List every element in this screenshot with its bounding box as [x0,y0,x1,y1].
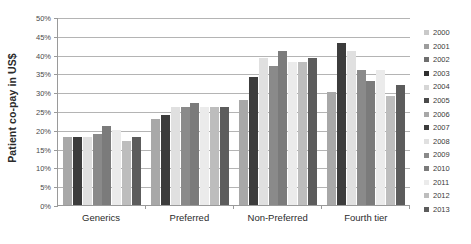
y-axis-tick-label: 10% [36,164,51,173]
y-axis-tick-label: 15% [36,145,51,154]
bar[interactable] [357,70,366,205]
bar-groups [58,18,410,205]
legend-item-label: 2003 [433,70,450,78]
legend-item[interactable]: 2005 [424,94,470,108]
y-axis-tick-label: 40% [36,51,51,60]
bar[interactable] [366,81,375,205]
legend-item-label: 2013 [433,206,450,214]
bar[interactable] [278,51,287,205]
legend-swatch-icon [424,30,429,35]
legend-item-label: 2007 [433,124,450,132]
legend-item[interactable]: 2008 [424,135,470,149]
chart-legend: 2000200120022003200420052006200720082009… [424,26,470,216]
legend-swatch-icon [424,180,429,185]
legend-item-label: 2006 [433,111,450,119]
bar[interactable] [190,103,199,205]
legend-item[interactable]: 2003 [424,67,470,81]
legend-item[interactable]: 2002 [424,53,470,67]
legend-swatch-icon [424,153,429,158]
plot-area [57,18,410,206]
bar[interactable] [132,137,141,205]
bar[interactable] [73,137,82,205]
bar-group [58,18,146,205]
y-axis-tick-label: 0% [40,202,51,211]
legend-item-label: 2000 [433,29,450,37]
legend-swatch-icon [424,207,429,212]
legend-swatch-icon [424,193,429,198]
legend-item[interactable]: 2009 [424,148,470,162]
bar-group [146,18,234,205]
bar[interactable] [161,115,170,205]
bar[interactable] [327,92,336,205]
y-axis-tick-label: 5% [40,183,51,192]
legend-swatch-icon [424,166,429,171]
y-axis-tick-label: 20% [36,126,51,135]
legend-swatch-icon [424,112,429,117]
x-axis-tickmark [409,205,410,209]
bar[interactable] [337,43,346,205]
legend-item[interactable]: 2013 [424,203,470,217]
legend-item-label: 2004 [433,83,450,91]
y-axis-title-text: Patient co-pay in US$ [6,53,18,162]
legend-swatch-icon [424,44,429,49]
legend-item[interactable]: 2006 [424,108,470,122]
x-axis-category-label: Non-Preferred [234,212,322,228]
bar-group [322,18,410,205]
x-axis-category-label: Fourth tier [322,212,410,228]
legend-swatch-icon [424,71,429,76]
bar[interactable] [171,107,180,205]
legend-swatch-icon [424,98,429,103]
legend-item-label: 2008 [433,138,450,146]
y-axis-title: Patient co-pay in US$ [0,0,24,215]
y-axis-tickmark [54,206,58,207]
legend-swatch-icon [424,125,429,130]
bar[interactable] [210,107,219,205]
legend-item[interactable]: 2001 [424,40,470,54]
x-axis-category-labels: GenericsPreferredNon-PreferredFourth tie… [57,212,410,228]
x-axis-category-label: Preferred [145,212,233,228]
bar-chart: Patient co-pay in US$ 50%45%40%35%30%25%… [0,0,471,244]
legend-item[interactable]: 2010 [424,162,470,176]
x-axis-category-label: Generics [57,212,145,228]
bar[interactable] [259,58,268,205]
legend-item-label: 2009 [433,151,450,159]
bar[interactable] [288,62,297,205]
bar[interactable] [63,137,72,205]
legend-item[interactable]: 2012 [424,189,470,203]
bar[interactable] [269,66,278,205]
bar[interactable] [396,85,405,205]
legend-item[interactable]: 2000 [424,26,470,40]
legend-swatch-icon [424,139,429,144]
bar[interactable] [112,130,121,205]
bar[interactable] [102,126,111,205]
legend-item-label: 2010 [433,165,450,173]
bar[interactable] [298,62,307,205]
bar[interactable] [376,70,385,205]
bar[interactable] [239,100,248,205]
legend-item[interactable]: 2004 [424,80,470,94]
bar[interactable] [386,96,395,205]
legend-item[interactable]: 2007 [424,121,470,135]
bar[interactable] [308,58,317,205]
bar[interactable] [200,107,209,205]
y-axis-tick-label: 30% [36,89,51,98]
bar[interactable] [93,134,102,205]
bar[interactable] [83,137,92,205]
x-axis-tickmark [145,205,146,209]
bar[interactable] [181,107,190,205]
bar[interactable] [151,119,160,205]
bar[interactable] [122,141,131,205]
y-axis-tick-label: 50% [36,14,51,23]
x-axis-tickmark [233,205,234,209]
legend-item-label: 2001 [433,43,450,51]
bar[interactable] [220,107,229,205]
bar-group [234,18,322,205]
legend-swatch-icon [424,85,429,90]
legend-item-label: 2012 [433,192,450,200]
y-axis-tick-label: 35% [36,70,51,79]
bar[interactable] [347,51,356,205]
bar[interactable] [249,77,258,205]
y-axis-tick-label: 25% [36,108,51,117]
legend-item-label: 2011 [433,179,449,187]
legend-item[interactable]: 2011 [424,176,470,190]
